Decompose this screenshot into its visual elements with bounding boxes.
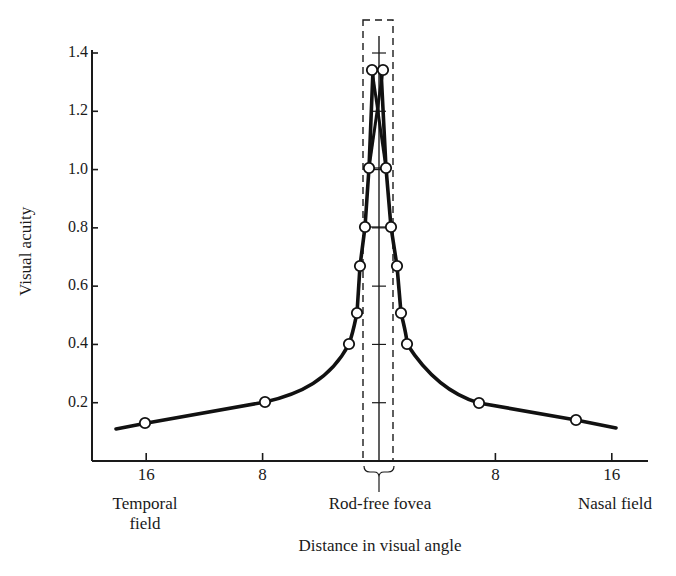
data-point-marker — [381, 163, 391, 173]
data-point-marker — [360, 222, 370, 232]
rod-free-fovea-label: Rod-free fovea — [310, 494, 450, 514]
data-point-marker — [260, 397, 270, 407]
y-tick-label: 0.6 — [48, 276, 88, 294]
x-tick-label: 16 — [592, 465, 632, 485]
data-point-marker — [367, 65, 377, 75]
temporal-field-label: Temporal field — [100, 494, 190, 534]
acuity-curve — [116, 70, 616, 429]
data-point-marker — [344, 339, 354, 349]
data-point-marker — [386, 222, 396, 232]
y-tick-label: 1.0 — [48, 160, 88, 178]
y-tick-label: 1.4 — [48, 43, 88, 61]
data-point-marker — [402, 339, 412, 349]
y-tick-label: 0.4 — [48, 334, 88, 352]
data-point-marker — [378, 65, 388, 75]
data-point-marker — [352, 308, 362, 318]
x-axis-label: Distance in visual angle — [270, 536, 490, 556]
y-tick-label: 1.2 — [48, 101, 88, 119]
x-tick-label: 8 — [475, 465, 515, 485]
nasal-field-label: Nasal field — [565, 494, 665, 514]
visual-acuity-chart — [0, 0, 676, 576]
data-point-marker — [355, 261, 365, 271]
x-tick-label: 8 — [243, 465, 283, 485]
data-point-marker — [364, 163, 374, 173]
data-point-marker — [571, 415, 581, 425]
temporal-label-line2: field — [100, 514, 190, 534]
temporal-label-line1: Temporal — [100, 494, 190, 514]
y-tick-label: 0.8 — [48, 218, 88, 236]
y-tick-label: 0.2 — [48, 393, 88, 411]
y-axis-label: Visual acuity — [16, 207, 36, 296]
x-tick-label: 16 — [126, 465, 166, 485]
data-point-marker — [140, 418, 150, 428]
data-point-marker — [392, 261, 402, 271]
fovea-brace — [364, 466, 394, 477]
data-point-marker — [396, 308, 406, 318]
data-point-marker — [474, 398, 484, 408]
rod-free-fovea-dashed-box — [363, 20, 393, 461]
